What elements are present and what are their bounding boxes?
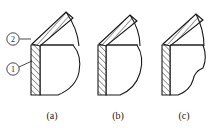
technical-figure: (a) (b) (c) 2 — [0, 0, 214, 128]
callout-1-label: 1 — [11, 65, 15, 74]
callout-2-label: 2 — [11, 35, 15, 44]
panel-c-vertical-hatched-bar — [162, 45, 170, 95]
panel-b-caption: (b) — [112, 110, 124, 122]
panel-a-caption: (a) — [46, 110, 57, 122]
panel-c-caption: (c) — [178, 110, 189, 122]
panel-a-vertical-hatched-bar — [31, 45, 40, 95]
figure-canvas: (a) (b) (c) 2 — [0, 0, 214, 128]
panel-b-vertical-hatched-bar — [98, 45, 106, 95]
